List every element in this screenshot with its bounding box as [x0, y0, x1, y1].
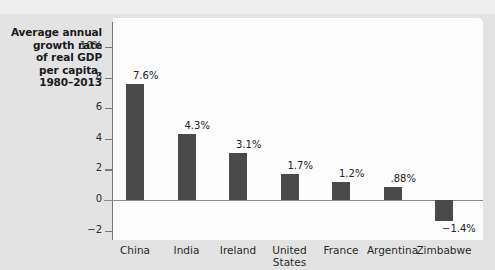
chart-figure: Average annual growth rate of real GDP p…	[0, 0, 495, 270]
chart-title-line-1: Average annual	[4, 26, 102, 39]
zero-baseline	[104, 200, 483, 201]
bar-value-label: 4.3%	[185, 120, 210, 131]
y-tick-label: 8	[60, 71, 102, 82]
y-tick-label: −2	[60, 224, 102, 235]
plot-area	[113, 18, 483, 240]
bar-value-label: 1.7%	[288, 160, 313, 171]
bar	[229, 153, 247, 200]
bar	[281, 174, 299, 200]
x-category-label: Zimbabwe	[414, 244, 474, 256]
bar-value-label: 1.2%	[339, 168, 364, 179]
y-tick-mark	[105, 231, 113, 232]
bar	[384, 187, 402, 200]
bar-value-label: .88%	[391, 173, 416, 184]
y-tick-label: 4	[60, 132, 102, 143]
y-tick-label: 10%	[60, 40, 102, 51]
y-tick-mark	[105, 108, 113, 109]
y-tick-mark	[105, 47, 113, 48]
chart-title-line-3: of real GDP	[4, 51, 102, 64]
y-tick-label: 0	[60, 193, 102, 204]
bar	[126, 84, 144, 200]
y-tick-mark	[105, 169, 113, 170]
y-tick-label: 2	[60, 162, 102, 173]
top-band	[0, 0, 495, 14]
bar-value-label: 7.6%	[133, 70, 158, 81]
bar-value-label: −1.4%	[442, 223, 476, 234]
y-tick-mark	[105, 78, 113, 79]
bar	[332, 182, 350, 200]
bar	[435, 200, 453, 221]
bar-value-label: 3.1%	[236, 139, 261, 150]
y-tick-label: 6	[60, 101, 102, 112]
bar	[178, 134, 196, 200]
y-tick-mark	[105, 139, 113, 140]
y-axis-line	[112, 22, 113, 240]
